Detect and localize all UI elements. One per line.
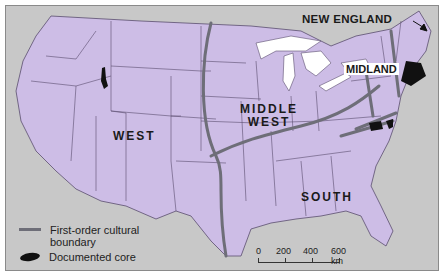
scale-tick-400: 400 [303, 246, 318, 256]
region-label-south: SOUTH [301, 191, 353, 204]
scale-tick-600: 600 km [331, 246, 346, 266]
boundary-line-icon [19, 228, 41, 231]
legend-boundary-text: First-order cultural boundary [50, 224, 139, 248]
legend-boundary-label-2: boundary [50, 236, 139, 248]
scale-tick-0: 0 [256, 246, 261, 256]
us-landmass [16, 11, 431, 256]
legend-boundary: First-order cultural boundary [16, 224, 139, 248]
region-label-new-england: NEW ENGLAND [302, 13, 392, 25]
legend-core: Documented core [16, 251, 139, 263]
region-label-west: WEST [113, 130, 156, 143]
legend-core-label: Documented core [49, 251, 136, 263]
scale-tick-200: 200 [276, 246, 291, 256]
map-frame: WEST MIDDLE WEST SOUTH MIDLAND NEW ENGLA… [5, 5, 439, 271]
region-label-middle-west: MIDDLE WEST [240, 103, 298, 129]
region-label-midland: MIDLAND [344, 63, 399, 75]
legend-boundary-label-1: First-order cultural [50, 224, 139, 236]
core-blob-icon [20, 252, 41, 263]
region-label-middle-west-line2: WEST [240, 116, 298, 129]
scale-line [258, 258, 340, 263]
legend: First-order cultural boundary Documented… [16, 224, 139, 266]
